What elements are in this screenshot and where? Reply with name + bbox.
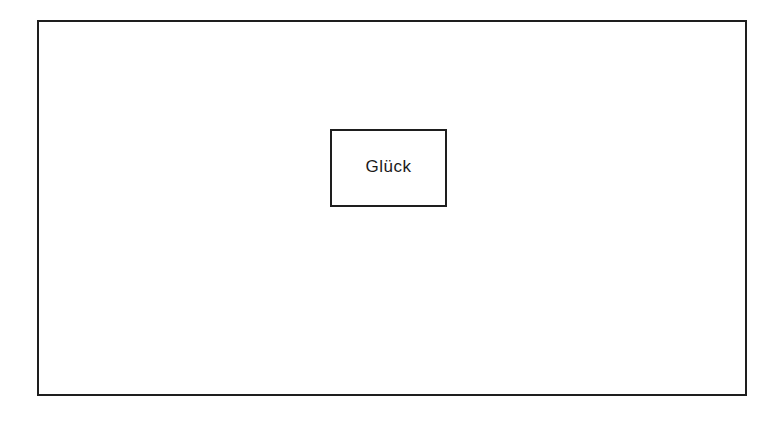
node-label: Glück <box>366 157 412 177</box>
node-box: Glück <box>330 129 447 207</box>
outer-frame <box>37 20 747 396</box>
